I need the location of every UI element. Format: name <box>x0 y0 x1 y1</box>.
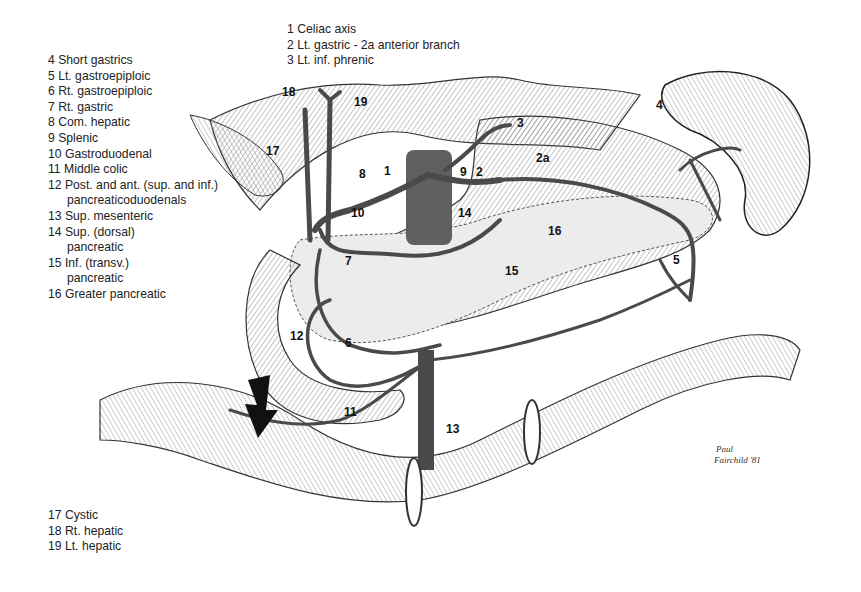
callout-9: 9 <box>460 165 467 179</box>
legend-left: 4 Short gastrics 5 Lt. gastroepiploic 6 … <box>48 53 218 303</box>
callout-7: 7 <box>345 254 352 268</box>
callout-10: 10 <box>351 206 365 220</box>
callout-2: 2 <box>476 165 483 179</box>
legend-item-14: 14 Sup. (dorsal) <box>48 225 218 241</box>
transverse-colon-shape <box>100 335 800 502</box>
callout-19: 19 <box>354 95 368 109</box>
callout-15: 15 <box>505 264 519 278</box>
legend-item-15: 15 Inf. (transv.) <box>48 256 218 272</box>
callout-11: 11 <box>344 405 357 419</box>
legend-item-12: 12 Post. and ant. (sup. and inf.) <box>48 178 218 194</box>
callout-18: 18 <box>282 85 296 99</box>
callout-12: 12 <box>290 329 304 343</box>
legend-item-7: 7 Rt. gastric <box>48 100 218 116</box>
callout-2a: 2a <box>536 151 550 165</box>
legend-item-9: 9 Splenic <box>48 131 218 147</box>
legend-item-1: 1 Celiac axis <box>287 22 460 38</box>
legend-item-15-cont: pancreatic <box>48 271 218 287</box>
callout-5: 5 <box>673 253 680 267</box>
legend-item-10: 10 Gastroduodenal <box>48 147 218 163</box>
legend-item-3: 3 Lt. inf. phrenic <box>287 53 460 69</box>
svg-text:Paul: Paul <box>715 444 733 454</box>
legend-item-19: 19 Lt. hepatic <box>48 539 123 555</box>
legend-item-17: 17 Cystic <box>48 508 123 524</box>
callout-14: 14 <box>458 206 472 220</box>
legend-top: 1 Celiac axis 2 Lt. gastric - 2a anterio… <box>287 22 460 69</box>
legend-bottom: 17 Cystic 18 Rt. hepatic 19 Lt. hepatic <box>48 508 123 555</box>
callout-8: 8 <box>359 167 366 181</box>
legend-item-6: 6 Rt. gastroepiploic <box>48 84 218 100</box>
cut-vessel-right <box>524 400 540 464</box>
legend-item-8: 8 Com. hepatic <box>48 115 218 131</box>
legend-item-2: 2 Lt. gastric - 2a anterior branch <box>287 38 460 54</box>
callout-17: 17 <box>266 144 280 158</box>
legend-item-13: 13 Sup. mesenteric <box>48 209 218 225</box>
artist-signature: Paul Fairchild '81 <box>713 444 761 465</box>
legend-item-11: 11 Middle colic <box>48 162 218 178</box>
legend-item-14-cont: pancreatic <box>48 240 218 256</box>
legend-item-18: 18 Rt. hepatic <box>48 524 123 540</box>
legend-item-5: 5 Lt. gastroepiploic <box>48 69 218 85</box>
callout-4: 4 <box>656 98 663 112</box>
callout-16: 16 <box>548 224 562 238</box>
legend-item-12-cont: pancreaticoduodenals <box>48 193 218 209</box>
aorta-shape <box>406 150 452 245</box>
callout-6: 6 <box>345 336 352 350</box>
callout-1: 1 <box>384 164 391 178</box>
callout-13: 13 <box>446 422 460 436</box>
legend-item-16: 16 Greater pancreatic <box>48 287 218 303</box>
legend-item-4: 4 Short gastrics <box>48 53 218 69</box>
callout-3: 3 <box>517 116 524 130</box>
cut-vessel-left <box>406 458 422 526</box>
svg-text:Fairchild '81: Fairchild '81 <box>713 455 761 465</box>
